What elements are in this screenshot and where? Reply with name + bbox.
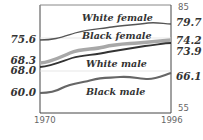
black-male-label: Black male <box>86 86 145 97</box>
white-female-start-value: 75.6 <box>0 33 36 45</box>
black-male-end-value: 66.1 <box>176 70 202 82</box>
black-male-start-value: 60.0 <box>0 86 36 98</box>
black-female-label: Black female <box>82 30 151 41</box>
x-tick-start: 1970 <box>34 115 56 125</box>
y-tick-bottom: 55 <box>178 103 189 113</box>
x-tick-end: 1996 <box>161 115 183 125</box>
white-male-label: White male <box>86 58 147 69</box>
white-female-end-value: 79.7 <box>176 16 202 28</box>
white-female-label: White female <box>82 12 153 23</box>
white-male-start-value: 68.0 <box>0 64 36 76</box>
y-tick-top: 85 <box>178 2 189 12</box>
white-male-end-value: 73.9 <box>176 45 202 57</box>
life-expectancy-chart: 75.6 68.3 68.0 60.0 79.7 74.2 73.9 66.1 … <box>0 0 203 140</box>
